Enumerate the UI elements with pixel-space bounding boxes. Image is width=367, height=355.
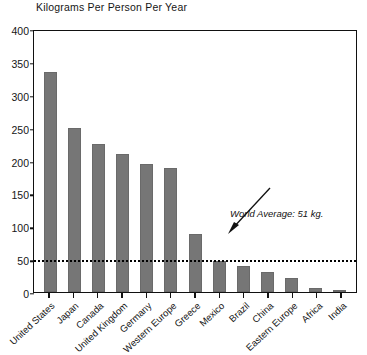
x-label-slot: Mexico <box>207 298 231 351</box>
plot-area: 400350300250200150100500 World Average: … <box>33 30 357 293</box>
x-label-slot: United States <box>37 298 61 351</box>
x-axis-label-india: India <box>326 300 349 322</box>
x-axis-label-united-states: United States <box>7 300 56 347</box>
x-axis-labels: United StatesJapanCanadaUnited KingdomGe… <box>33 298 357 351</box>
chart-axis-title: Kilograms Per Person Per Year <box>36 1 187 13</box>
world-average-arrow <box>34 31 358 294</box>
world-average-line <box>34 260 356 262</box>
x-label-slot: Eastern Europe <box>280 298 304 351</box>
x-label-slot: Africa <box>304 298 328 351</box>
x-label-slot: India <box>329 298 353 351</box>
